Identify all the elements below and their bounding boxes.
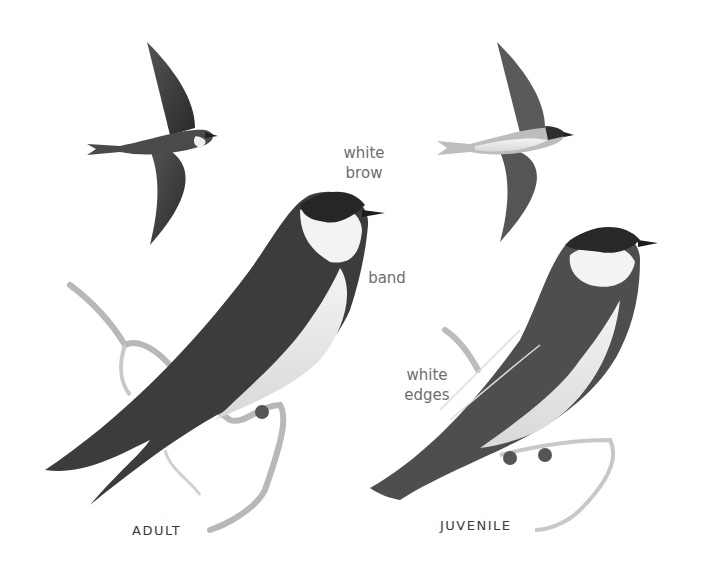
adult-perched-swallow (45, 192, 385, 530)
juvenile-flying-swallow (437, 42, 574, 242)
juvenile-caption: JUVENILE (440, 518, 511, 533)
adult-caption: ADULT (132, 523, 181, 538)
field-guide-plate: white brow band white edges ADULT JUVENI… (0, 0, 701, 565)
adult-flying-swallow (87, 42, 218, 245)
bird-illustrations (0, 0, 701, 565)
band-annotation: band (362, 268, 412, 288)
white-brow-label-line2: brow (336, 163, 392, 183)
white-edges-label-line1: white (396, 365, 458, 385)
white-brow-annotation: white brow (336, 143, 392, 183)
white-brow-label-line1: white (336, 143, 392, 163)
white-edges-label-line2: edges (396, 385, 458, 405)
white-edges-annotation: white edges (396, 365, 458, 405)
